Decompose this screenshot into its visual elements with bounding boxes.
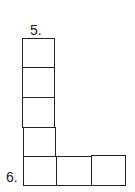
cell-6-2[interactable]: [56, 156, 92, 186]
cell-5-4[interactable]: [23, 127, 56, 157]
cell-5-3[interactable]: [22, 97, 55, 128]
cell-5-2[interactable]: [22, 67, 55, 98]
clue-number-6: 6.: [6, 170, 18, 184]
cell-5-1[interactable]: [22, 38, 55, 68]
cell-6-3[interactable]: [91, 155, 126, 186]
cell-5-5-6-1[interactable]: [23, 156, 57, 186]
clue-number-5: 5.: [30, 23, 42, 37]
